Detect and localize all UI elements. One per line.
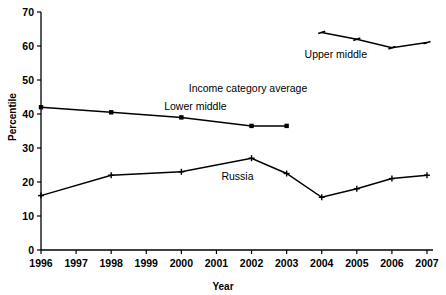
x-axis-tick-label: 1996: [29, 257, 53, 269]
series-line-0: [322, 32, 427, 47]
data-point-marker: [39, 105, 43, 109]
data-point-marker: [109, 110, 113, 114]
y-axis-tick-label: 50: [22, 74, 34, 86]
x-axis-tick-label: 1999: [135, 257, 159, 269]
y-axis-tick-label: 70: [22, 6, 34, 18]
annotation-russia: Russia: [221, 170, 253, 182]
data-point-marker: [179, 115, 183, 119]
y-axis-label-wrapper: Percentile: [2, 82, 20, 152]
x-axis-label: Year: [212, 281, 233, 292]
chart-plot-area: 0102030405060701996199719981999200020012…: [0, 0, 446, 295]
x-axis-tick-label: 2007: [415, 257, 439, 269]
x-axis-tick-label: 1997: [64, 257, 88, 269]
x-axis-tick-label: 2000: [170, 257, 194, 269]
x-axis-tick-label: 2005: [345, 257, 369, 269]
y-axis-tick-label: 60: [22, 40, 34, 52]
annotation-income-category-average: Income category average: [189, 82, 307, 94]
annotation-lower-middle: Lower middle: [164, 100, 226, 112]
annotation-upper-middle: Upper middle: [305, 48, 367, 60]
y-axis-tick-label: 40: [22, 108, 34, 120]
x-axis-tick-label: 2002: [240, 257, 264, 269]
y-axis-tick-label: 0: [28, 244, 34, 256]
x-axis-tick-label: 2003: [275, 257, 299, 269]
data-point-marker: [424, 41, 431, 43]
y-axis-tick-label: 10: [22, 210, 34, 222]
y-axis-label: Percentile: [7, 93, 18, 141]
x-axis-label-wrapper: Year: [0, 276, 446, 294]
x-axis-tick-label: 2004: [310, 257, 334, 269]
y-axis-tick-label: 20: [22, 176, 34, 188]
x-axis-tick-label: 2006: [380, 257, 404, 269]
y-axis-tick-label: 30: [22, 142, 34, 154]
x-axis-tick-label: 2001: [205, 257, 229, 269]
data-point-marker: [249, 124, 253, 128]
x-axis-tick-label: 1998: [100, 257, 124, 269]
data-point-marker: [284, 124, 288, 128]
line-chart: 0102030405060701996199719981999200020012…: [0, 0, 446, 295]
